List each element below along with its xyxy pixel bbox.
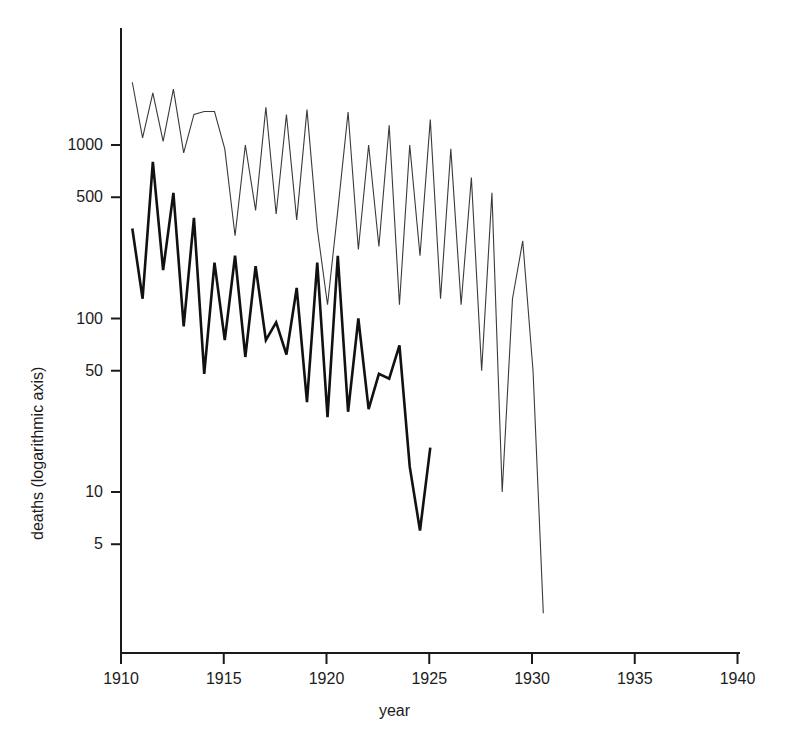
y-axis-tick-label: 100 xyxy=(40,311,103,327)
y-axis-tick-label: 10 xyxy=(40,484,103,500)
y-axis-ticks xyxy=(111,145,121,544)
y-axis-tick-label: 1000 xyxy=(40,137,103,153)
chart-plot-area xyxy=(0,0,789,751)
x-axis-ticks xyxy=(121,653,738,664)
x-axis-tick-label: 1915 xyxy=(184,671,264,687)
y-axis-tick-label: 50 xyxy=(40,363,103,379)
data-series-group xyxy=(132,82,543,613)
y-axis-tick-label: 500 xyxy=(40,189,103,205)
x-axis-tick-label: 1910 xyxy=(81,671,161,687)
x-axis-tick-label: 1920 xyxy=(287,671,367,687)
data-series-line xyxy=(132,82,543,613)
chart-figure: 510501005001000 191019151920192519301935… xyxy=(0,0,789,751)
x-axis-tick-label: 1925 xyxy=(389,671,469,687)
x-axis-tick-label: 1935 xyxy=(595,671,675,687)
y-axis-title: deaths (logarithmic axis) xyxy=(30,367,46,540)
x-axis-title: year xyxy=(0,703,789,719)
x-axis-tick-label: 1930 xyxy=(492,671,572,687)
y-axis-tick-label: 5 xyxy=(40,536,103,552)
data-series-line xyxy=(132,162,430,531)
x-axis-tick-label: 1940 xyxy=(698,671,778,687)
